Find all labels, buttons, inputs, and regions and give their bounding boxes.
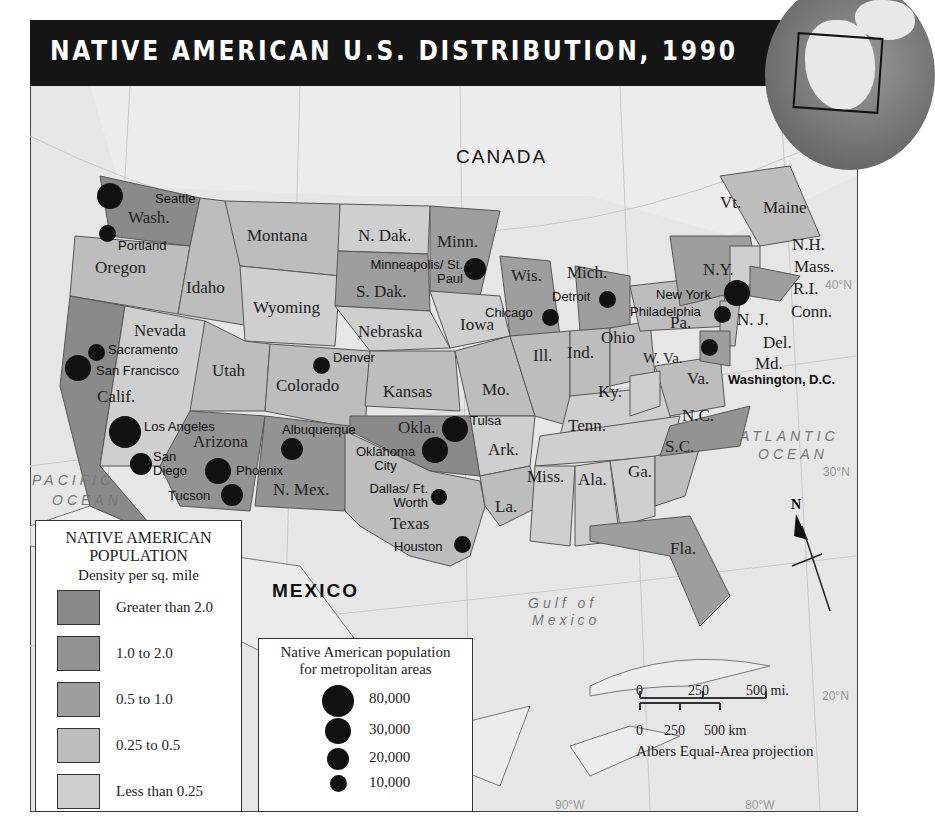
city-dot [431,489,447,505]
label-pacific-ocean: OCEAN [52,492,122,508]
city-label: Tucson [168,489,210,503]
label-lat-20: 20°N [822,689,849,703]
legend-title-line: POPULATION [36,547,241,565]
legend-title-line: Native American population [259,644,472,661]
city-dot [714,306,731,323]
label-lat-30: 30°N [823,465,850,479]
label-atlantic-ocean: OCEAN [758,446,828,462]
city-label: Phoenix [236,464,283,478]
swatch [57,590,100,625]
city-label: Philadelphia [630,305,701,319]
swatch [57,636,100,671]
city-dot [65,355,91,381]
label-canada: CANADA [456,146,547,168]
label-gulf-mexico: Mexico [532,612,600,628]
state-label: Okla. [398,418,435,438]
city-label: Sacramento [108,343,178,357]
city-label: Houston [394,540,442,554]
city-label: Denver [333,351,375,365]
state-label: R.I. [793,279,819,299]
state-label: Wash. [128,208,170,228]
state-label: Fla. [670,539,696,559]
state-label: Calif. [97,387,135,407]
state-label: Ohio [601,328,635,348]
state-label: Mich. [567,263,607,283]
state-label: Texas [390,514,429,534]
state-label: S.C. [665,437,694,457]
state-label: Md. [755,354,783,374]
legend-label: 80,000 [369,690,410,707]
state-label: Maine [763,198,806,218]
legend-item: 10,000 [259,772,472,796]
state-label: N.C. [682,406,714,426]
city-label: San Francisco [96,364,179,378]
city-label: Chicago [485,306,533,320]
city-label: Washington, D.C. [728,373,835,387]
metro-legend: Native American population for metropoli… [258,638,473,812]
city-dot [454,536,471,553]
city-dot [442,416,468,442]
circle-80000 [322,685,354,717]
circle-30000 [325,718,351,744]
swatch [57,774,100,809]
city-dot [221,484,243,506]
state-label: Conn. [791,302,832,322]
scale-km-0: 0 [636,723,643,739]
city-label: Dallas/ Ft. Worth [360,482,428,510]
city-label: Portland [118,239,166,253]
state-label: Ga. [628,462,652,482]
state-label: Va. [687,369,709,389]
legend-label: 20,000 [369,749,410,766]
compass-n-label: N [791,497,801,513]
legend-item: 80,000 [259,684,472,716]
state-label: Ky. [598,382,622,402]
city-label: Minneapolis/ St. Paul [368,258,463,286]
city-dot [701,339,718,356]
city-label: Tulsa [470,414,501,428]
state-label: Ark. [488,440,519,460]
state-label: Vt. [720,193,741,213]
state-label: Idaho [186,278,225,298]
scale-km-250: 250 [664,723,685,739]
legend-label: 30,000 [369,721,410,738]
label-pacific: PACIFIC [32,472,114,488]
state-label: Wyoming [253,298,320,318]
label-mexico: MEXICO [272,580,359,602]
city-label: San Diego [153,450,193,478]
scale-mi-0: 0 [636,683,643,699]
title-bar: NATIVE AMERICAN U.S. DISTRIBUTION, 1990 [30,20,830,86]
state-label: Mass. [794,257,834,277]
legend-item: Less than 0.25 [57,768,241,814]
circle-10000 [330,775,347,792]
legend-item: 20,000 [259,746,472,772]
swatch [57,728,100,763]
state-label: Ill. [533,346,552,366]
state-label: Tenn. [568,416,606,436]
city-label: Los Angeles [144,420,215,434]
state-label: Ind. [567,343,594,363]
state-label: N.H. [792,235,825,255]
state-label: Wis. [511,266,542,286]
locator-inset-box [792,32,883,114]
city-dot [422,437,448,463]
legend-label: 10,000 [369,774,410,791]
city-dot [542,309,559,326]
legend-item: 1.0 to 2.0 [57,630,241,676]
city-label: Oklahoma City [348,445,423,473]
city-dot [281,438,303,460]
legend-label: 0.25 to 0.5 [116,737,180,754]
scale-mi-500: 500 mi. [746,683,789,699]
city-dot [97,183,123,209]
label-lon-90: 90°W [555,798,584,812]
state-label: Ala. [578,470,607,490]
state-label: Oregon [95,258,146,278]
label-lon-80: 80°W [745,798,774,812]
state-label: N. J. [737,310,769,330]
legend-item: 30,000 [259,716,472,746]
state-label: Montana [247,226,307,246]
density-legend: NATIVE AMERICAN POPULATION Density per s… [35,520,242,812]
city-label: Seattle [155,192,195,206]
city-label: Detroit [552,290,590,304]
metro-legend-title: Native American population for metropoli… [259,644,472,678]
state-label: Arizona [193,432,248,452]
